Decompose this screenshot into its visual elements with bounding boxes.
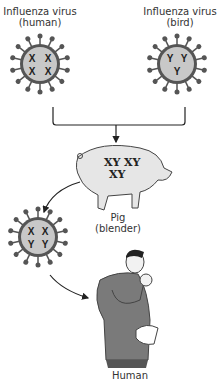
human-coughing-icon [97, 250, 158, 368]
svg-text:Y: Y [181, 53, 188, 64]
bird-virus-icon: Y Y Y [147, 34, 208, 95]
svg-text:X: X [29, 66, 36, 77]
svg-text:Y: Y [167, 53, 174, 64]
pig-to-virus-arrow [44, 182, 80, 212]
svg-text:X: X [29, 53, 36, 64]
svg-text:Y: Y [28, 239, 35, 250]
svg-text:Y: Y [42, 239, 49, 250]
svg-text:XY: XY [109, 168, 126, 181]
human-virus-icon: X X X X [10, 34, 71, 95]
svg-text:XY: XY [124, 156, 141, 169]
svg-text:X: X [28, 226, 35, 237]
pig-subtitle: (blender) [88, 223, 148, 234]
svg-text:X: X [45, 66, 52, 77]
merge-connector [53, 107, 185, 142]
svg-text:Y: Y [174, 66, 181, 77]
diagram-canvas: X X X X Y Y Y X X Y Y XY XY XY [0, 0, 220, 391]
pig-icon: XY XY XY [76, 145, 172, 210]
human-label: Human [100, 370, 160, 381]
pig-label: Pig (blender) [88, 212, 148, 234]
svg-text:X: X [45, 53, 52, 64]
svg-text:X: X [42, 226, 49, 237]
reassortant-virus-icon: X X Y Y [8, 207, 69, 268]
pig-title: Pig [88, 212, 148, 223]
virus-to-human-arrow [50, 275, 88, 298]
